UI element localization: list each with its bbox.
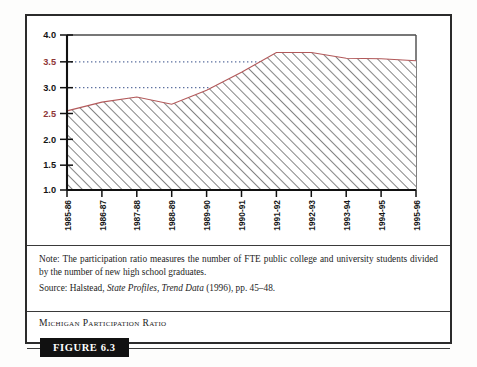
x-tick-label: 1989-90 [202, 200, 212, 231]
source-italic-title: State Profiles, Trend Data [107, 283, 204, 293]
x-tick-label: 1990-91 [237, 200, 247, 231]
figure-number-badge: FIGURE 6.3 [40, 338, 129, 357]
figure-outer-frame: 4.0 3.5 3.0 2.5 2.0 1.5 1.0 [25, 14, 452, 344]
x-axis-labels: 1985-86 1986-87 1987-88 1988-89 1989-90 … [63, 200, 422, 231]
source-text: Source: Halstead, State Profiles, Trend … [39, 282, 438, 295]
y-tick-label: 1.0 [43, 185, 56, 195]
y-axis-labels: 4.0 3.5 3.0 2.5 2.0 1.5 1.0 [43, 30, 56, 195]
x-tick-label: 1995-96 [412, 200, 422, 231]
y-tick-label: 4.0 [43, 30, 56, 40]
source-prefix: Source: Halstead, [39, 283, 107, 293]
y-tick-label: 2.5 [43, 109, 56, 119]
source-suffix: (1996), pp. 45–48. [204, 283, 275, 293]
figure-caption: Michigan Participation Ratio [39, 317, 438, 328]
chart-region: 4.0 3.5 3.0 2.5 2.0 1.5 1.0 [27, 16, 450, 245]
x-tick-label: 1985-86 [63, 200, 73, 231]
figure-root: 4.0 3.5 3.0 2.5 2.0 1.5 1.0 [0, 0, 477, 367]
x-tick-label: 1987-88 [132, 200, 142, 231]
x-tick-label: 1991-92 [272, 200, 282, 231]
participation-ratio-area-chart: 4.0 3.5 3.0 2.5 2.0 1.5 1.0 [27, 16, 450, 245]
y-tick-label: 1.5 [43, 160, 56, 170]
caption-block: Michigan Participation Ratio [27, 311, 450, 333]
y-tick-label: 3.5 [43, 57, 56, 67]
note-text: Note: The participation ratio measures t… [39, 253, 438, 278]
y-tick-label: 3.0 [43, 83, 56, 93]
x-tick-label: 1992-93 [307, 200, 317, 231]
note-source-block: Note: The participation ratio measures t… [27, 245, 450, 311]
x-tick-label: 1994-95 [377, 200, 387, 231]
figure-label-bar: FIGURE 6.3 [27, 337, 450, 361]
x-tick-label: 1986-87 [98, 200, 108, 231]
x-tick-label: 1993-94 [342, 200, 352, 231]
x-tick-label: 1988-89 [167, 200, 177, 231]
y-tick-label: 2.0 [43, 135, 56, 145]
